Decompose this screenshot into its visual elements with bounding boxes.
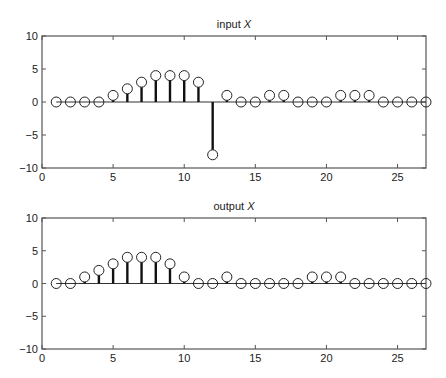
stem-marker: [179, 272, 189, 282]
stem-marker: [307, 272, 317, 282]
x-tick-label: 20: [320, 171, 332, 183]
stem-marker: [137, 77, 147, 87]
stem-marker: [279, 90, 289, 100]
x-tick-label: 10: [178, 171, 190, 183]
x-tick-label: 0: [39, 171, 45, 183]
x-tick-label: 5: [110, 352, 116, 364]
x-tick-label: 5: [110, 171, 116, 183]
y-tick-label: 0: [32, 96, 38, 108]
y-tick-label: 10: [26, 212, 38, 224]
stem-marker: [222, 272, 232, 282]
stem-marker: [108, 90, 118, 100]
plot-title: input X: [217, 18, 252, 30]
x-tick-label: 15: [249, 352, 261, 364]
y-tick-label: 0: [32, 278, 38, 290]
stem-marker: [350, 90, 360, 100]
stem-marker: [222, 90, 232, 100]
y-tick-label: 5: [32, 245, 38, 257]
output-x-plot: output X0510152025−10−50510: [19, 200, 431, 364]
stem-marker: [208, 150, 218, 160]
y-tick-label: −5: [25, 310, 38, 322]
stem-marker: [336, 90, 346, 100]
stem-marker: [122, 84, 132, 94]
stem-marker: [321, 272, 331, 282]
y-tick-label: −10: [19, 162, 38, 174]
stem-marker: [364, 90, 374, 100]
stem-marker: [151, 71, 161, 81]
y-tick-label: 10: [26, 30, 38, 42]
y-tick-label: −10: [19, 343, 38, 355]
stem-marker: [193, 77, 203, 87]
x-tick-label: 25: [391, 171, 403, 183]
stem-marker: [165, 259, 175, 269]
x-tick-label: 25: [391, 352, 403, 364]
stem-marker: [94, 265, 104, 275]
stem-marker: [336, 272, 346, 282]
x-tick-label: 10: [178, 352, 190, 364]
input-x-plot: input X0510152025−10−50510: [19, 18, 431, 183]
x-tick-label: 0: [39, 352, 45, 364]
stem-marker: [80, 272, 90, 282]
stem-marker: [265, 90, 275, 100]
stem-plots: input X0510152025−10−50510output X051015…: [0, 0, 446, 378]
stem-marker: [108, 259, 118, 269]
y-tick-label: 5: [32, 63, 38, 75]
stem-marker: [122, 252, 132, 262]
plot-title: output X: [214, 200, 256, 212]
x-tick-label: 15: [249, 171, 261, 183]
x-tick-label: 20: [320, 352, 332, 364]
stem-marker: [179, 71, 189, 81]
stem-marker: [165, 71, 175, 81]
stem-marker: [137, 252, 147, 262]
stem-marker: [151, 252, 161, 262]
y-tick-label: −5: [25, 129, 38, 141]
